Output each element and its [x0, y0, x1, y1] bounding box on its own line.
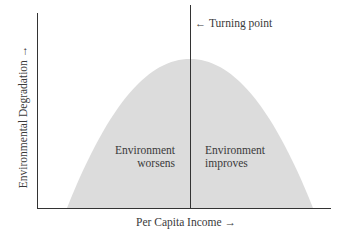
- improves-label-line2: improves: [205, 157, 248, 170]
- improves-label-line1: Environment: [205, 144, 266, 156]
- worsens-label-line1: Environment: [115, 144, 176, 156]
- worsens-label-line2: worsens: [137, 157, 175, 169]
- x-axis-label: Per Capita Income →: [136, 216, 236, 229]
- kuznets-curve-diagram: ← Turning point Environment worsens Envi…: [0, 0, 346, 234]
- turning-point-label: Turning point: [209, 17, 273, 30]
- turning-point-arrow-icon: ←: [195, 17, 206, 29]
- y-axis-label: Environmental Degradation →: [17, 46, 30, 188]
